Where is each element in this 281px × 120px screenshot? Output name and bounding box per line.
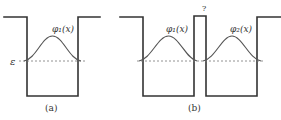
wavefunction-a — [24, 36, 81, 61]
panel-a: ε φ₁(x) (a) — [4, 17, 100, 113]
wavefunction-label-a: φ₁(x) — [52, 24, 74, 34]
wavefunction-label-b-left: φ₁(x) — [166, 24, 188, 34]
panel-b: ? φ₁(x) φ₂(x) (b) — [120, 4, 281, 113]
potential-double-well-b — [120, 16, 281, 96]
quantum-well-figure: ε φ₁(x) (a) ? φ₁(x) φ₂(x) (b) — [0, 0, 281, 120]
caption-b: (b) — [188, 103, 201, 113]
energy-label: ε — [10, 56, 15, 67]
wavefunction-left-b — [139, 36, 197, 61]
wavefunction-label-b-right: φ₂(x) — [230, 24, 252, 34]
caption-a: (a) — [45, 103, 57, 113]
wavefunction-right-b — [203, 36, 261, 61]
barrier-label: ? — [202, 4, 206, 13]
